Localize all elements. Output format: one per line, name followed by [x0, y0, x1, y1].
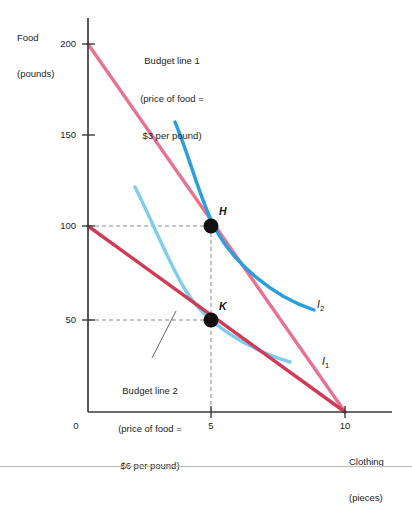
budget-line-1-annotation: Budget line 1 (price of food = $3 per po… [112, 30, 232, 168]
point-label-h: H [219, 205, 227, 217]
y-tick-label-50: 50 [38, 314, 76, 325]
curve-label-i1: I1 [322, 355, 329, 370]
curve-label-i2-sub: 2 [320, 304, 324, 313]
budget-line-2-annotation-line2: (price of food = [90, 423, 210, 436]
x-tick-label-0: 0 [62, 420, 90, 431]
data-point-h [204, 219, 219, 234]
x-tick-label-10: 10 [331, 420, 359, 431]
y-tick-label-100: 100 [38, 220, 76, 231]
budget-line-2-annotation-line1: Budget line 2 [90, 385, 210, 398]
bottom-divider [0, 466, 412, 467]
budget-line-1-annotation-line1: Budget line 1 [112, 55, 232, 68]
y-axis-title: Food (pounds) [17, 8, 55, 104]
y-tick-label-150: 150 [38, 129, 76, 140]
curve-label-i2: I2 [317, 298, 324, 313]
x-axis-title: Clothing (pieces) [349, 432, 384, 507]
budget-line-1-annotation-line3: $3 per pound) [112, 130, 232, 143]
budget-line-2-annotation: Budget line 2 (price of food = $6 per po… [90, 360, 210, 498]
budget-line-2-leader [152, 311, 176, 358]
x-axis-title-line2: (pieces) [349, 492, 384, 504]
data-point-k [204, 313, 219, 328]
indifference-curve-i1 [135, 187, 290, 362]
point-label-k: K [219, 300, 227, 312]
curve-label-i1-sub: 1 [325, 361, 329, 370]
budget-line-1-annotation-line2: (price of food = [112, 93, 232, 106]
y-tick-label-200: 200 [38, 38, 76, 49]
y-axis-title-line2: (pounds) [17, 68, 55, 80]
